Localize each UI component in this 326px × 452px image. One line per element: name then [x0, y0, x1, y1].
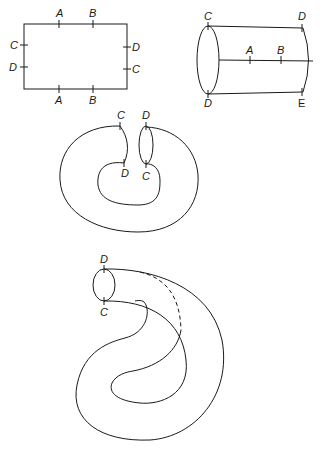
label-bottom-a: A [54, 94, 62, 106]
label-top-a: A [55, 7, 63, 19]
label-right-d: D [132, 41, 140, 53]
square-outline [24, 24, 127, 89]
label-tube-right-bottom: C [142, 170, 150, 182]
label-tube-right-top: D [142, 109, 150, 121]
label-tube-left-bottom: D [121, 167, 129, 179]
figure-square: A B A B C D D C [9, 7, 140, 106]
label-bottom-b: B [89, 94, 96, 106]
label-tube-left-top: C [117, 109, 125, 121]
label-right-c: C [132, 63, 140, 75]
label-klein-top: D [100, 253, 108, 265]
label-cyl-top-left: C [204, 10, 212, 22]
figure-bent-tube: C D D C [60, 109, 198, 232]
figure-cylinder: C D D E A B [197, 10, 313, 109]
tube-end-ellipse [139, 126, 153, 164]
klein-end-ellipse [93, 269, 115, 301]
label-cyl-b: B [277, 44, 284, 56]
label-cyl-bottom-right: E [298, 97, 305, 109]
cylinder-end-ellipse [197, 26, 219, 94]
figure-klein-bottle: D C [76, 253, 224, 440]
label-top-b: B [89, 7, 96, 19]
label-left-c: C [10, 39, 18, 51]
klein-bottle-construction-diagram: A B A B C D D C C D D E A B [0, 0, 326, 452]
label-cyl-a: A [245, 44, 253, 56]
label-left-d: D [9, 61, 17, 73]
label-cyl-bottom-left: D [204, 97, 212, 109]
label-klein-bottom: C [100, 306, 108, 318]
label-cyl-top-right: D [298, 10, 306, 22]
